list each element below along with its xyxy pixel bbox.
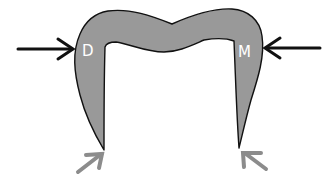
arch-shape [75,9,263,150]
label-m: M [238,43,251,61]
label-d: D [82,42,94,60]
right-force-arrow-icon [265,38,320,58]
left-support-arrow-icon [78,154,102,172]
diagram-canvas: D M [0,0,325,177]
left-force-arrow-icon [18,39,73,59]
right-support-arrow-icon [243,153,266,169]
